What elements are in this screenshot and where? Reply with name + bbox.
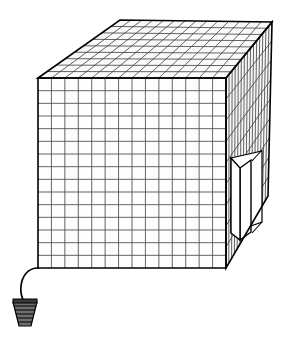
door-panel-edge: [231, 158, 240, 240]
plug-collar: [13, 299, 37, 303]
mesh-cube-diagram: [0, 0, 293, 339]
figure-root: Isometric line drawing of a cube made of…: [0, 0, 293, 339]
power-cord: [21, 268, 38, 302]
power-cord-group: [21, 268, 38, 302]
access-door[interactable]: [231, 150, 262, 240]
screw-base-plug: [13, 299, 37, 326]
